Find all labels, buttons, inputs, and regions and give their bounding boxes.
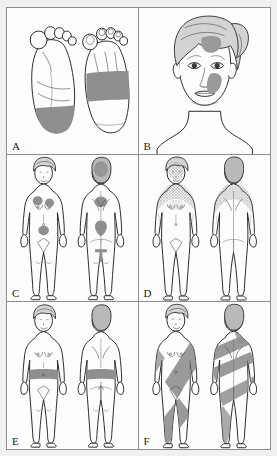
figure-posterior-d — [210, 157, 256, 300]
panel-b: B — [139, 8, 271, 155]
figure-anterior-c — [21, 157, 67, 299]
panel-e: E — [7, 302, 139, 449]
figure-plate: A — [0, 0, 277, 456]
figure-posterior-f — [210, 304, 258, 447]
lesion-right-breast — [45, 199, 54, 208]
panel-label-f: F — [144, 435, 150, 447]
panel-f: F — [139, 302, 271, 449]
panel-b-illustration — [139, 8, 271, 154]
panel-e-illustration — [7, 302, 138, 449]
figure-anterior-d — [153, 157, 199, 300]
lesion-waist-band-anterior — [29, 369, 58, 380]
panel-label-a: A — [12, 140, 20, 152]
figure-anterior-e — [21, 305, 67, 447]
panel-f-illustration — [139, 302, 271, 449]
panel-label-d: D — [144, 287, 152, 299]
lesion-waist-band-posterior — [86, 369, 115, 380]
panel-a: A — [7, 8, 139, 155]
panel-c: C — [7, 155, 139, 302]
lesion-upper-back — [94, 196, 107, 207]
figure-anterior-f — [142, 304, 208, 447]
panel-label-c: C — [12, 287, 20, 299]
panel-label-b: B — [144, 140, 152, 152]
panel-grid: A — [6, 7, 271, 450]
figure-posterior-e — [78, 305, 124, 447]
lesion-left-breast — [33, 196, 43, 205]
panel-d: D — [139, 155, 271, 302]
lesion-lower-abdomen — [38, 226, 49, 235]
lesion-scalp — [94, 161, 108, 177]
panel-label-e: E — [12, 435, 19, 447]
panel-c-illustration — [7, 155, 138, 301]
face-portrait — [157, 16, 252, 154]
figure-posterior-c — [78, 157, 124, 299]
panel-d-illustration — [139, 155, 271, 301]
foot-dorsal-view — [83, 28, 129, 133]
panel-a-illustration — [7, 8, 138, 154]
foot-plantar-view — [30, 27, 76, 134]
